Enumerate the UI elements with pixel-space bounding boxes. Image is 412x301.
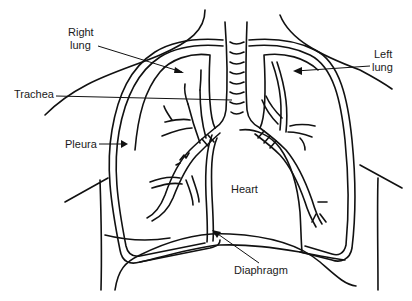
label-diaphragm: Diaphragm xyxy=(212,230,288,276)
label-left-lung: Left lung xyxy=(293,48,393,75)
right-lung-label-line2: lung xyxy=(70,39,91,51)
arrowhead-icon xyxy=(293,67,302,75)
heart-label: Heart xyxy=(231,183,258,195)
arrowhead-icon xyxy=(174,67,184,73)
right-pleura xyxy=(109,39,223,263)
left-lung-label-line2: lung xyxy=(372,61,393,73)
thorax-diagram: Right lung Left lung Trachea Pleura Hear… xyxy=(0,0,412,301)
trachea-label: Trachea xyxy=(14,88,55,100)
body-outline xyxy=(45,10,402,290)
trachea xyxy=(215,22,260,128)
left-lung xyxy=(260,54,318,128)
bronchi xyxy=(147,62,327,227)
left-lung-label-line1: Left xyxy=(374,48,392,60)
right-lung-label-line1: Right xyxy=(68,26,94,38)
pleura-label: Pleura xyxy=(65,138,98,150)
diaphragm-label: Diaphragm xyxy=(234,264,288,276)
arrowhead-icon xyxy=(121,140,128,148)
